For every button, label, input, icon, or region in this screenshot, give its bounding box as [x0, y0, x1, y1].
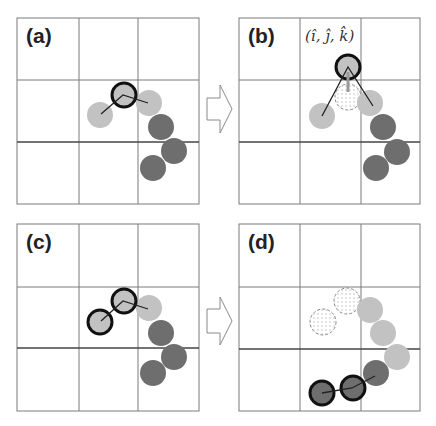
dark-bead [161, 344, 187, 370]
light-bead [357, 90, 383, 116]
light-bead [87, 102, 113, 128]
panels: (a)(b)(î, ĵ, k̂)(c)(d) [17, 18, 420, 411]
panel-label: (a) [26, 24, 52, 47]
right-arrow-icon [207, 297, 232, 345]
panel-d: (d) [239, 224, 420, 411]
dark-bead [140, 360, 166, 386]
panel-a: (a) [17, 18, 199, 204]
dark-bead [140, 155, 166, 181]
light-bead [370, 320, 396, 346]
lattice-move-diagram: (a)(b)(î, ĵ, k̂)(c)(d) [0, 0, 436, 426]
panel-label: (b) [248, 24, 275, 47]
right-arrow-icon [207, 85, 232, 133]
ghost-bead [310, 309, 336, 335]
panel-c: (c) [17, 224, 199, 411]
dark-bead [161, 138, 187, 164]
dark-bead [148, 114, 174, 140]
dark-bead [384, 139, 410, 165]
dark-bead [363, 155, 389, 181]
light-bead [357, 297, 383, 323]
panel-label: (d) [248, 230, 275, 253]
dark-bead [363, 360, 389, 386]
dark-bead [370, 114, 396, 140]
ghost-bead [334, 288, 360, 314]
panel-b: (b)(î, ĵ, k̂) [239, 18, 420, 204]
transition-arrows [207, 85, 232, 345]
light-bead [136, 90, 162, 116]
light-bead [136, 295, 162, 321]
dark-bead [148, 320, 174, 346]
panel-label: (c) [26, 230, 52, 253]
light-bead [384, 344, 410, 370]
unit-vector-label: (î, ĵ, k̂) [305, 26, 354, 45]
